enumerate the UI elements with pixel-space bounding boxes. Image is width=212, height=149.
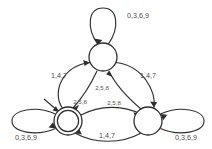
label-transition-top-to-right: 1,4,7: [140, 71, 156, 80]
label-transition-left-to-top: 1,4,7: [51, 71, 67, 80]
transition-top-to-right: [116, 63, 157, 108]
label-self-loop-top: 0,3,6,9: [127, 11, 149, 20]
state-node-right[interactable]: [134, 107, 162, 135]
transition-top-to-left: [73, 71, 97, 111]
left-state-outer-circle[interactable]: [54, 107, 82, 135]
transition-right-to-top-arrowhead: [106, 71, 112, 77]
self-loop-left-path: [12, 109, 56, 132]
automaton-svg: 0,3,6,9 0,3,6,9 0,3,6,9 1,4,7 1,4,7 1,4,…: [0, 0, 212, 149]
label-transition-right-to-top: 2,5,8: [95, 84, 109, 91]
label-transition-top-to-left: 2,5,8: [73, 98, 87, 105]
transition-left-to-right: [81, 107, 140, 118]
self-loop-left-state: [12, 109, 56, 132]
label-self-loop-left: 0,3,6,9: [15, 133, 37, 142]
label-self-loop-right: 0,3,6,9: [175, 133, 197, 142]
top-state-circle[interactable]: [89, 43, 117, 71]
state-node-top[interactable]: [89, 43, 117, 71]
transition-left-to-right-path: [81, 107, 140, 115]
label-transition-left-to-right: 2,5,8: [107, 99, 121, 106]
self-loop-top-path: [90, 8, 116, 45]
state-node-left-accepting[interactable]: [54, 107, 82, 135]
self-loop-right-path: [161, 109, 205, 132]
self-loop-right-state: [161, 109, 205, 132]
label-transition-right-to-left: 1,4,7: [99, 131, 115, 140]
state-diagram-canvas: 0,3,6,9 0,3,6,9 0,3,6,9 1,4,7 1,4,7 1,4,…: [0, 0, 212, 149]
self-loop-top-state: [90, 8, 116, 45]
right-state-circle[interactable]: [134, 107, 162, 135]
transition-top-to-right-arrowhead: [150, 102, 157, 108]
transition-top-to-right-path: [116, 63, 154, 108]
